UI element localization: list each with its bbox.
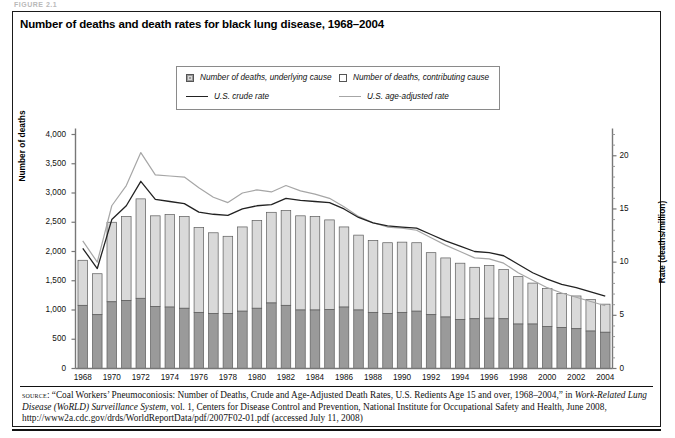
bar-group bbox=[151, 216, 161, 369]
bar-group bbox=[92, 274, 102, 369]
bar-group bbox=[484, 266, 494, 369]
bar-group bbox=[397, 242, 407, 368]
bar-group bbox=[368, 240, 378, 368]
bar-group bbox=[267, 212, 277, 368]
source-note: source: “Coal Workers’ Pneumoconiosis: N… bbox=[22, 390, 652, 425]
source-rule bbox=[20, 386, 653, 387]
source-prefix: source bbox=[22, 391, 47, 400]
bar-group bbox=[542, 288, 552, 368]
bar-group bbox=[78, 260, 88, 368]
bar-group bbox=[426, 253, 436, 369]
bar-group bbox=[600, 304, 610, 368]
y-axis-left-tick-label: 3,500 bbox=[26, 159, 66, 168]
y-axis-right-tick-label: 5 bbox=[620, 310, 650, 319]
y-axis-left-tick-label: 0 bbox=[26, 364, 66, 373]
y-axis-left-tick-label: 1,500 bbox=[26, 276, 66, 285]
bar-group bbox=[325, 220, 335, 369]
bar-group bbox=[383, 243, 393, 369]
bar-group bbox=[107, 222, 117, 368]
bar-group bbox=[281, 211, 291, 369]
bar-group bbox=[339, 227, 349, 369]
bar-group bbox=[470, 267, 480, 368]
bar-group bbox=[499, 270, 509, 369]
bar-group bbox=[252, 220, 262, 368]
y-axis-right-tick-label: 10 bbox=[620, 257, 650, 266]
bottom-rule bbox=[12, 429, 661, 431]
bar-group bbox=[223, 236, 233, 368]
y-axis-left-tick-label: 1,000 bbox=[26, 305, 66, 314]
bar-group bbox=[136, 199, 146, 369]
figure-root: FIGURE 2.1 Number of deaths and death ra… bbox=[0, 0, 675, 438]
bar-group bbox=[180, 216, 190, 368]
bar-group bbox=[310, 216, 320, 368]
y-axis-right-tick-label: 15 bbox=[620, 204, 650, 213]
bar-group bbox=[571, 296, 581, 369]
chart-plot-area: Number of deaths Rate (deaths/million) 0… bbox=[0, 0, 675, 438]
bar-group bbox=[557, 294, 567, 369]
bar-group bbox=[165, 215, 175, 369]
bar-group bbox=[528, 283, 538, 368]
bar-group bbox=[455, 263, 465, 368]
bar-group bbox=[513, 277, 523, 369]
bar-group bbox=[296, 216, 306, 369]
y-axis-left-tick-label: 4,000 bbox=[26, 130, 66, 139]
y-axis-left-tick-label: 500 bbox=[26, 334, 66, 343]
bar-group bbox=[441, 258, 451, 369]
y-axis-left-tick-label: 3,000 bbox=[26, 188, 66, 197]
y-axis-left-tick-label: 2,000 bbox=[26, 247, 66, 256]
y-axis-right-tick-label: 0 bbox=[620, 364, 650, 373]
bar-group bbox=[238, 227, 248, 369]
bar-group bbox=[122, 216, 132, 368]
bar-group bbox=[354, 235, 364, 368]
bar-group bbox=[194, 228, 204, 369]
bar-group bbox=[412, 243, 422, 369]
source-text-1: : “Coal Workers’ Pneumoconiosis: Number … bbox=[47, 390, 575, 400]
bar-group bbox=[209, 233, 219, 369]
y-axis-right-tick-label: 20 bbox=[620, 151, 650, 160]
bar-group bbox=[586, 299, 596, 368]
y-axis-left-tick-label: 2,500 bbox=[26, 217, 66, 226]
x-axis-tick-label: 2004 bbox=[588, 373, 622, 382]
